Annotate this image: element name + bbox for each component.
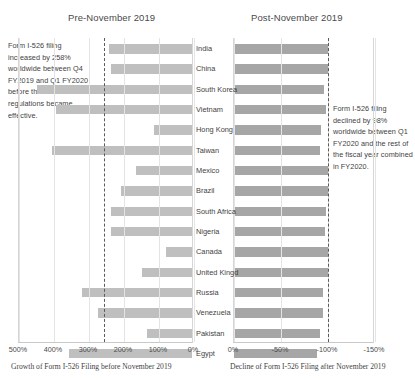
category-label: Russia bbox=[196, 283, 219, 303]
chart-plot-area-left bbox=[18, 38, 193, 343]
bar[interactable] bbox=[234, 146, 320, 156]
axis-tick-label: 300% bbox=[79, 345, 97, 354]
bar-series-left bbox=[19, 38, 192, 342]
chart-row bbox=[19, 222, 192, 242]
bar-series-right bbox=[234, 38, 373, 342]
category-label: Pakistan bbox=[196, 324, 224, 344]
chart-plot-area-right bbox=[233, 38, 374, 343]
chart-row bbox=[234, 324, 373, 344]
reference-line bbox=[328, 38, 329, 342]
chart-row bbox=[234, 141, 373, 161]
chart-row bbox=[234, 100, 373, 120]
category-label: South Korea bbox=[196, 80, 237, 100]
chart-row bbox=[234, 303, 373, 323]
axis-caption-right: Decline of Form I-526 Filing after Novem… bbox=[230, 362, 385, 371]
chart-row bbox=[19, 283, 192, 303]
axis-caption-left: Growth of Form I-526 Filing before Novem… bbox=[11, 362, 172, 371]
axis-tick-label: -100% bbox=[317, 345, 338, 354]
category-label: Brazil bbox=[196, 181, 214, 201]
gridline bbox=[19, 38, 20, 342]
chart-row bbox=[19, 141, 192, 161]
axis-tick-label: 200% bbox=[114, 345, 132, 354]
category-label: Taiwan bbox=[196, 141, 219, 161]
chart-row bbox=[234, 161, 373, 181]
axis-tick-label: 500% bbox=[9, 345, 27, 354]
axis-tick-label: 400% bbox=[44, 345, 62, 354]
chart-row bbox=[19, 303, 192, 323]
category-label: India bbox=[196, 39, 212, 59]
category-label: South Africa bbox=[196, 202, 236, 222]
chart-row bbox=[19, 263, 192, 283]
bar[interactable] bbox=[234, 308, 323, 318]
bar[interactable] bbox=[234, 329, 320, 339]
bar[interactable] bbox=[37, 85, 192, 95]
category-axis-labels: IndiaChinaSouth KoreaVietnamHong KongTai… bbox=[196, 38, 236, 343]
chart-row bbox=[19, 181, 192, 201]
axis-tick-label: -150% bbox=[364, 345, 385, 354]
chart-row bbox=[234, 222, 373, 242]
category-label: Hong Kong bbox=[196, 120, 233, 140]
axis-tick-label: 0% bbox=[188, 345, 198, 354]
bar[interactable] bbox=[98, 308, 192, 318]
bar[interactable] bbox=[234, 125, 321, 135]
bar[interactable] bbox=[142, 268, 192, 278]
axis-tick-label: -50% bbox=[272, 345, 289, 354]
category-label: Mexico bbox=[196, 161, 219, 181]
chart-row bbox=[234, 120, 373, 140]
category-label: Venezuela bbox=[196, 303, 231, 323]
gridline bbox=[375, 38, 376, 342]
category-label: China bbox=[196, 59, 215, 79]
chart-row bbox=[234, 59, 373, 79]
chart-row bbox=[234, 80, 373, 100]
bar[interactable] bbox=[121, 186, 192, 196]
category-label: Canada bbox=[196, 242, 222, 262]
chart-row bbox=[19, 80, 192, 100]
bar[interactable] bbox=[111, 227, 192, 237]
category-label: Egypt bbox=[196, 344, 215, 364]
chart-row bbox=[19, 59, 192, 79]
category-label: Vietnam bbox=[196, 100, 223, 120]
bar[interactable] bbox=[111, 207, 192, 217]
axis-tick-label: 0% bbox=[228, 345, 238, 354]
bar[interactable] bbox=[82, 288, 192, 298]
gridline bbox=[281, 38, 282, 342]
x-axis-left: 500%400%300%200%100%0% bbox=[18, 345, 193, 357]
category-label: Nigeria bbox=[196, 222, 219, 242]
chart-row bbox=[19, 242, 192, 262]
gridline bbox=[194, 38, 195, 342]
chart-row bbox=[19, 120, 192, 140]
gridline bbox=[89, 38, 90, 342]
category-label: United Kingd bbox=[196, 263, 238, 283]
bar[interactable] bbox=[234, 85, 324, 95]
chart-row bbox=[234, 39, 373, 59]
reference-line bbox=[104, 38, 105, 342]
bar[interactable] bbox=[147, 329, 192, 339]
bar[interactable] bbox=[234, 227, 325, 237]
x-axis-right: 0%-50%-100%-150% bbox=[233, 345, 374, 357]
chart-row bbox=[234, 202, 373, 222]
bar[interactable] bbox=[136, 166, 192, 176]
chart-row bbox=[19, 161, 192, 181]
bar[interactable] bbox=[166, 247, 192, 257]
bar[interactable] bbox=[52, 146, 192, 156]
gridline bbox=[124, 38, 125, 342]
chart-row bbox=[19, 324, 192, 344]
chart-row bbox=[234, 181, 373, 201]
panel-title-pre-november: Pre-November 2019 bbox=[68, 12, 155, 23]
axis-tick-label: 100% bbox=[149, 345, 167, 354]
gridline bbox=[159, 38, 160, 342]
bar[interactable] bbox=[111, 64, 192, 74]
chart-row bbox=[234, 283, 373, 303]
chart-row bbox=[19, 202, 192, 222]
chart-row bbox=[234, 263, 373, 283]
chart-row bbox=[19, 39, 192, 59]
gridline bbox=[54, 38, 55, 342]
panel-title-post-november: Post-November 2019 bbox=[251, 12, 343, 23]
chart-row bbox=[19, 100, 192, 120]
bar[interactable] bbox=[234, 288, 323, 298]
chart-row bbox=[234, 242, 373, 262]
bar[interactable] bbox=[109, 44, 192, 54]
